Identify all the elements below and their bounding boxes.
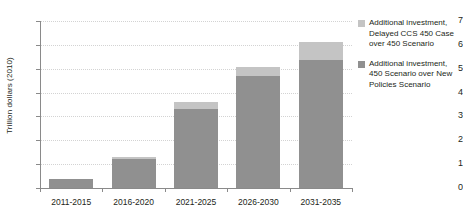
y-tick-label-2: 2 — [433, 135, 463, 144]
y-axis-line — [40, 21, 41, 188]
y-tick-label-3: 3 — [433, 111, 463, 120]
x-tick-label-2021-2025: 2021-2025 — [165, 197, 227, 207]
y-axis-title-text: Trillion dollars (2010) — [5, 57, 14, 134]
x-tick-label-2011-2015: 2011-2015 — [40, 197, 102, 207]
x-tick-mark — [290, 188, 291, 192]
bar-group[interactable] — [49, 21, 93, 188]
bar-segment[interactable] — [236, 76, 280, 188]
bar-segment[interactable] — [112, 159, 156, 188]
bar-group[interactable] — [174, 21, 218, 188]
x-tick-label-2026-2030: 2026-2030 — [227, 197, 289, 207]
legend-swatch-450-scenario-icon — [358, 61, 365, 68]
plot-area — [40, 21, 352, 188]
y-tick-mark-5 — [36, 69, 40, 70]
legend-item-delayed-ccs: Additional investment, Delayed CCS 450 C… — [358, 18, 461, 50]
x-tick-label-2031-2035: 2031-2035 — [290, 197, 352, 207]
x-tick-mark — [40, 188, 41, 192]
bar-segment[interactable] — [112, 157, 156, 158]
y-tick-label-1: 1 — [433, 159, 463, 168]
legend-label-delayed-ccs: Additional investment, Delayed CCS 450 C… — [369, 18, 461, 50]
bar-segment[interactable] — [174, 102, 218, 109]
bar-segment[interactable] — [299, 60, 343, 188]
legend-label-450-scenario: Additional investment, 450 Scenario over… — [369, 59, 461, 91]
chart-legend: Additional investment, Delayed CCS 450 C… — [358, 18, 461, 99]
bar-segment[interactable] — [236, 67, 280, 77]
bar-segment[interactable] — [49, 179, 93, 188]
bar-group[interactable] — [299, 21, 343, 188]
bar-group[interactable] — [236, 21, 280, 188]
bar-group[interactable] — [112, 21, 156, 188]
legend-swatch-delayed-ccs-icon — [358, 20, 365, 27]
x-tick-mark — [165, 188, 166, 192]
x-tick-mark — [352, 188, 353, 192]
y-axis-title: Trillion dollars (2010) — [0, 0, 18, 190]
y-tick-mark-6 — [36, 45, 40, 46]
y-tick-mark-1 — [36, 164, 40, 165]
legend-item-450-scenario: Additional investment, 450 Scenario over… — [358, 59, 461, 91]
bar-segment[interactable] — [299, 42, 343, 60]
bar-segment[interactable] — [174, 109, 218, 188]
x-tick-mark — [227, 188, 228, 192]
y-tick-mark-4 — [36, 93, 40, 94]
x-tick-mark — [102, 188, 103, 192]
y-tick-mark-3 — [36, 116, 40, 117]
x-tick-label-2016-2020: 2016-2020 — [102, 197, 164, 207]
x-axis-line — [40, 188, 353, 189]
y-tick-mark-7 — [36, 21, 40, 22]
stacked-bar-chart: Trillion dollars (2010) 01234567 2011-20… — [0, 0, 463, 221]
y-tick-label-0: 0 — [433, 183, 463, 192]
y-tick-mark-2 — [36, 140, 40, 141]
